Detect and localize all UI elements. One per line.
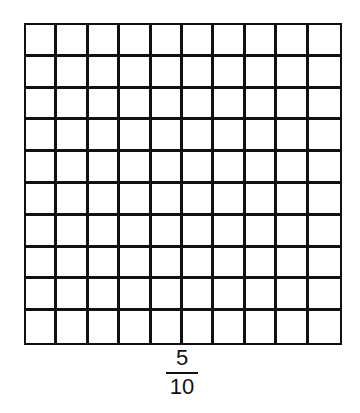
- grid-cell: [183, 120, 214, 152]
- grid-cell: [309, 89, 340, 121]
- grid-cell: [26, 311, 57, 343]
- grid-cell: [89, 279, 120, 311]
- grid-cell: [57, 216, 88, 248]
- grid-cell: [183, 152, 214, 184]
- grid-cell: [309, 25, 340, 57]
- grid-cell: [183, 25, 214, 57]
- grid-cell: [57, 120, 88, 152]
- grid-cell: [26, 184, 57, 216]
- grid-cell: [152, 25, 183, 57]
- grid-cell: [277, 120, 308, 152]
- fraction-numerator: 5: [176, 346, 188, 370]
- grid-cell: [89, 57, 120, 89]
- grid-cell: [57, 279, 88, 311]
- grid-cell: [309, 184, 340, 216]
- grid-cell: [214, 279, 245, 311]
- grid-cell: [57, 25, 88, 57]
- grid-cell: [152, 152, 183, 184]
- grid-cell: [152, 57, 183, 89]
- grid-cell: [120, 120, 151, 152]
- grid-cell: [89, 25, 120, 57]
- grid-cell: [246, 184, 277, 216]
- grid-cell: [89, 311, 120, 343]
- grid-cell: [120, 216, 151, 248]
- grid-cell: [57, 311, 88, 343]
- grid-cell: [26, 152, 57, 184]
- grid-cell: [277, 25, 308, 57]
- grid-cell: [26, 57, 57, 89]
- grid-cell: [309, 120, 340, 152]
- grid-cell: [120, 248, 151, 280]
- grid-cell: [57, 89, 88, 121]
- grid-cell: [214, 184, 245, 216]
- grid-cell: [120, 279, 151, 311]
- grid-cell: [152, 216, 183, 248]
- grid-cell: [277, 279, 308, 311]
- grid-cell: [26, 248, 57, 280]
- grid-cell: [152, 311, 183, 343]
- grid-cell: [277, 89, 308, 121]
- hundred-grid: [24, 23, 342, 345]
- grid-cell: [57, 184, 88, 216]
- grid-cell: [309, 311, 340, 343]
- grid-cell: [26, 120, 57, 152]
- grid-cell: [214, 57, 245, 89]
- fraction-denominator: 10: [170, 375, 194, 399]
- grid-cell: [277, 152, 308, 184]
- grid-cell: [246, 248, 277, 280]
- grid-cell: [277, 216, 308, 248]
- grid-cell: [214, 311, 245, 343]
- grid-cell: [120, 25, 151, 57]
- grid-cell: [89, 216, 120, 248]
- grid-cell: [214, 89, 245, 121]
- grid-cell: [277, 248, 308, 280]
- grid-cell: [89, 89, 120, 121]
- grid-cell: [246, 311, 277, 343]
- fraction-label: 5 10: [162, 346, 202, 399]
- grid-cell: [152, 120, 183, 152]
- grid-cell: [89, 152, 120, 184]
- grid-cell: [183, 89, 214, 121]
- grid-cell: [309, 216, 340, 248]
- grid-cell: [214, 120, 245, 152]
- grid-cell: [183, 57, 214, 89]
- grid-cell: [246, 25, 277, 57]
- grid-cell: [57, 152, 88, 184]
- grid-cell: [277, 184, 308, 216]
- grid-cell: [246, 120, 277, 152]
- grid-cell: [183, 184, 214, 216]
- grid-cell: [309, 57, 340, 89]
- grid-cell: [120, 152, 151, 184]
- grid-cell: [214, 25, 245, 57]
- grid-cell: [152, 184, 183, 216]
- grid-cell: [214, 248, 245, 280]
- grid-cell: [246, 57, 277, 89]
- grid-cell: [89, 248, 120, 280]
- grid-cell: [246, 89, 277, 121]
- grid-cell: [57, 57, 88, 89]
- grid-cell: [246, 216, 277, 248]
- grid-cell: [183, 216, 214, 248]
- grid-cell: [214, 152, 245, 184]
- grid-cell: [277, 311, 308, 343]
- grid-cell: [152, 89, 183, 121]
- grid-cell: [183, 248, 214, 280]
- grid-cell: [152, 248, 183, 280]
- grid-cell: [309, 248, 340, 280]
- grid-cell: [89, 184, 120, 216]
- grid-cell: [277, 57, 308, 89]
- grid-cell: [152, 279, 183, 311]
- grid-cell: [120, 89, 151, 121]
- grid-cell: [214, 216, 245, 248]
- grid-cell: [246, 152, 277, 184]
- grid-cell: [183, 279, 214, 311]
- grid-cell: [309, 152, 340, 184]
- grid-cell: [246, 279, 277, 311]
- grid-cell: [26, 279, 57, 311]
- grid-cell: [89, 120, 120, 152]
- grid-cell: [26, 25, 57, 57]
- grid-cell: [120, 57, 151, 89]
- grid-cell: [183, 311, 214, 343]
- grid-cell: [309, 279, 340, 311]
- grid-cell: [120, 184, 151, 216]
